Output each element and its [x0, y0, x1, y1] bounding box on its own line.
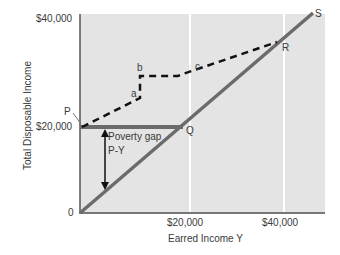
x-tick-40000: $40,000 [262, 217, 298, 228]
point-label-p: P [64, 106, 71, 117]
poverty-gap-label: Poverty gap [108, 131, 161, 142]
point-label-c: c [195, 61, 200, 72]
point-label-b: b [137, 62, 143, 73]
y-axis-label: Total Disposable Income [22, 51, 33, 181]
x-axis-label: Earred Income Y [168, 233, 243, 244]
y-tick-40000: $40,000 [36, 13, 72, 24]
y-tick-20000: $20,000 [36, 121, 72, 132]
x-tick-20000: $20,000 [167, 217, 203, 228]
origin-label: 0 [68, 207, 74, 218]
point-label-r: R [282, 42, 289, 53]
poverty-gap-formula: P-Y [108, 145, 125, 156]
point-label-q: Q [186, 125, 194, 136]
point-label-s: S [315, 8, 322, 19]
point-label-a: a [131, 88, 137, 99]
